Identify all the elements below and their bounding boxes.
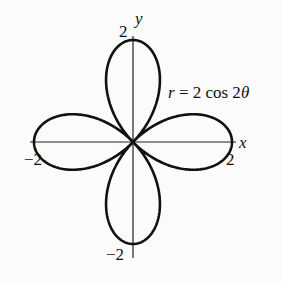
y-axis-label: y (133, 9, 143, 28)
y-tick-neg2: −2 (106, 245, 124, 264)
eq-rest: = 2 cos 2 (175, 83, 241, 102)
x-axis-label: x (238, 133, 247, 152)
eq-theta: θ (241, 83, 249, 102)
x-tick-2: 2 (226, 150, 235, 169)
polar-rose-chart: y 2 x −2 2 −2 r = 2 cos 2θ (0, 0, 281, 283)
x-tick-neg2: −2 (24, 150, 42, 169)
equation-label: r = 2 cos 2θ (168, 83, 249, 102)
y-tick-2: 2 (119, 22, 128, 41)
